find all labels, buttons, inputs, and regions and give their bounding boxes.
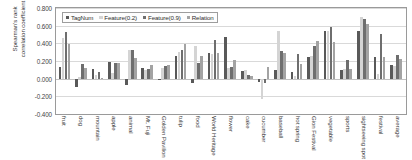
x-axis-label-cell: baseball (273, 116, 290, 160)
legend-swatch-icon (99, 16, 102, 19)
bar-group (273, 8, 290, 114)
x-axis-label: baseball (278, 116, 285, 138)
bar[interactable] (84, 68, 87, 79)
x-axis-label-cell: Gion Festival (306, 116, 323, 160)
bar[interactable] (134, 58, 137, 79)
x-axis-label: vegetable (328, 116, 335, 142)
x-axis-label: food (194, 116, 201, 128)
bar-group (107, 8, 124, 114)
bar[interactable] (250, 76, 253, 79)
x-axis-label: sports (344, 116, 351, 132)
x-axis-label-cell: Golden Pavilion (156, 116, 173, 160)
bar-group (206, 8, 223, 114)
legend-item[interactable]: TagNum (66, 14, 93, 21)
x-axis-label-cell: apple (106, 116, 123, 160)
bar-group (190, 8, 207, 114)
bar[interactable] (191, 79, 194, 83)
x-axis-category-labels: fruitdogmountainappleanimalMt. FujiGolde… (55, 116, 407, 160)
bar[interactable] (184, 44, 187, 78)
y-axis-tick: 0.600 (20, 22, 52, 29)
x-axis-label-cell: cucumber (256, 116, 273, 160)
bar[interactable] (383, 57, 386, 79)
bar[interactable] (167, 65, 170, 79)
x-axis-label-cell: dog (73, 116, 90, 160)
bar[interactable] (233, 60, 236, 79)
x-axis-label: hot spring (294, 116, 301, 142)
legend-item[interactable]: Feature(0.9) (143, 14, 181, 21)
plot-area (55, 7, 407, 115)
x-axis-label-cell: mountain (89, 116, 106, 160)
bar-group (123, 8, 140, 114)
bar-group (355, 8, 372, 114)
legend-item[interactable]: Relation (187, 14, 214, 21)
x-axis-label: Gion Festival (311, 116, 318, 151)
x-axis-label: cucumber (261, 116, 268, 142)
y-axis-tick: 0.400 (20, 40, 52, 47)
x-axis-label: World Heritage (211, 116, 218, 155)
legend-swatch-icon (66, 16, 69, 19)
x-axis-label-cell: Mt. Fuji (139, 116, 156, 160)
bars-layer (56, 8, 406, 114)
legend-swatch-icon (143, 16, 146, 19)
bar[interactable] (150, 65, 153, 78)
bar[interactable] (200, 56, 203, 79)
y-axis-tick: -0.200 (20, 93, 52, 100)
bar-group (223, 8, 240, 114)
y-axis-tick-labels: 0.8000.6000.4000.2000.000-0.200-0.400 (20, 0, 52, 122)
bar[interactable] (264, 79, 267, 83)
x-axis-label: festival (378, 116, 385, 134)
x-axis-label-cell: average (389, 116, 406, 160)
bar[interactable] (366, 24, 369, 79)
bar[interactable] (117, 63, 120, 79)
bar[interactable] (125, 79, 128, 86)
bar-group (339, 8, 356, 114)
bar-group (173, 8, 190, 114)
bar-group (322, 8, 339, 114)
bar[interactable] (101, 78, 104, 79)
bar-group (289, 8, 306, 114)
y-axis-tick: 0.800 (20, 5, 52, 12)
bar-group (156, 8, 173, 114)
x-axis-label: flower (228, 116, 235, 132)
x-axis-label: sightseeing spot (361, 116, 368, 159)
x-axis-label: Golden Pavilion (161, 116, 168, 158)
x-axis-label: animal (128, 116, 135, 134)
bar-group (140, 8, 157, 114)
bar-group (372, 8, 389, 114)
bar[interactable] (217, 53, 220, 78)
y-axis-tick: -0.400 (20, 111, 52, 118)
x-axis-label-cell: hot spring (289, 116, 306, 160)
bar[interactable] (283, 53, 286, 79)
bar-group (74, 8, 91, 114)
bar[interactable] (399, 59, 402, 78)
x-axis-label-cell: cake (239, 116, 256, 160)
x-axis-label-cell: food (189, 116, 206, 160)
x-axis-label-cell: tulip (173, 116, 190, 160)
bar[interactable] (349, 69, 352, 78)
y-axis-tick: 0.200 (20, 58, 52, 65)
x-axis-label: dog (78, 116, 85, 126)
x-axis-label-cell: animal (123, 116, 140, 160)
bar-group (90, 8, 107, 114)
x-axis-label: average (394, 116, 401, 138)
x-axis-label-cell: World Heritage (206, 116, 223, 160)
chart-legend: TagNumFeature(0.2)Feature(0.9)Relation (62, 12, 218, 23)
bar[interactable] (75, 79, 78, 87)
bar[interactable] (333, 42, 336, 79)
x-axis-label: tulip (178, 116, 185, 127)
bar-group (57, 8, 74, 114)
bar[interactable] (158, 79, 161, 81)
x-axis-label: cake (244, 116, 251, 129)
bar[interactable] (68, 44, 71, 78)
bar-group (306, 8, 323, 114)
x-axis-label-cell: fruit (56, 116, 73, 160)
x-axis-label: apple (111, 116, 118, 131)
bar[interactable] (316, 41, 319, 79)
legend-label: TagNum (71, 14, 93, 21)
x-axis-label-cell: sports (339, 116, 356, 160)
y-axis-tick: 0.000 (20, 75, 52, 82)
bar[interactable] (267, 67, 270, 79)
bar[interactable] (300, 64, 303, 79)
legend-item[interactable]: Feature(0.2) (99, 14, 137, 21)
gridline (56, 114, 406, 115)
